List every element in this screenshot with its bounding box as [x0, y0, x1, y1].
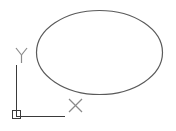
- drawing-canvas[interactable]: [0, 0, 176, 131]
- ucs-x-label: [69, 99, 82, 112]
- ellipse-shape[interactable]: [37, 11, 163, 95]
- ucs-icon: [13, 48, 83, 119]
- ucs-y-label: [16, 48, 27, 63]
